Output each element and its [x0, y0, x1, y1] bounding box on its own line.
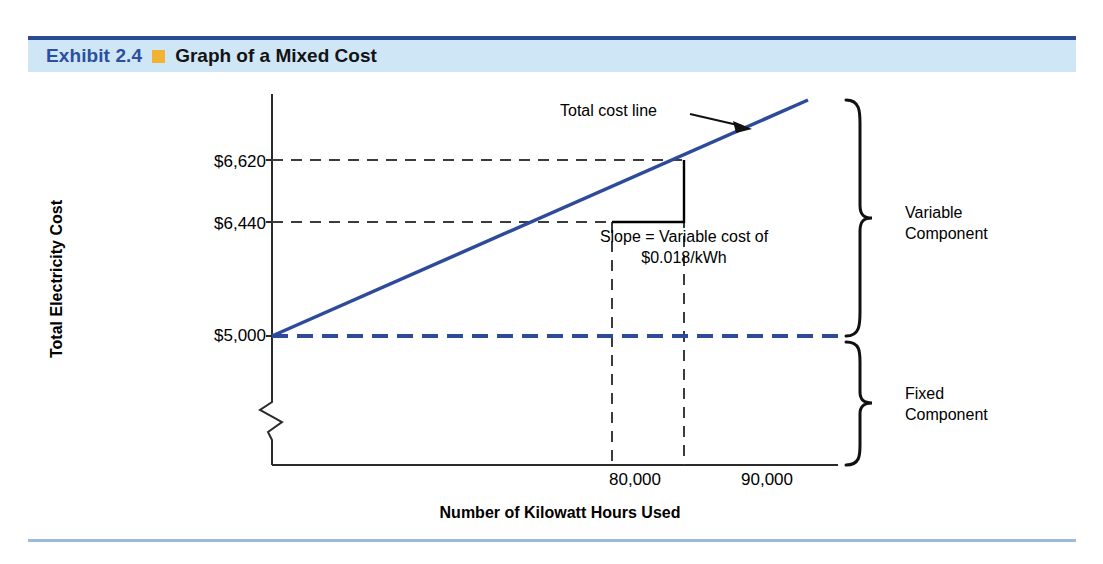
- y-axis-break-icon: [260, 394, 282, 465]
- variable-component-brace: [846, 100, 872, 336]
- bottom-divider: [28, 539, 1076, 542]
- x-tick-label-90000: 90,000: [707, 470, 827, 490]
- annotation-slope-line2: $0.018/kWh: [548, 247, 820, 268]
- exhibit-header-content: Exhibit 2.4 Graph of a Mixed Cost: [28, 45, 377, 67]
- total-cost-line: [272, 100, 808, 336]
- annotation-fixed-component: Fixed Component: [905, 383, 988, 425]
- exhibit-number: Exhibit 2.4: [46, 45, 142, 67]
- y-axis-title: Total Electricity Cost: [48, 159, 66, 399]
- exhibit-header: Exhibit 2.4 Graph of a Mixed Cost: [28, 36, 1076, 72]
- fixed-component-brace: [846, 342, 872, 465]
- annotation-variable-component-line2: Component: [905, 223, 988, 244]
- annotation-total-cost-line: Total cost line: [560, 102, 657, 120]
- y-tick-label-5000: $5,000: [170, 326, 266, 346]
- chart-canvas: [0, 72, 1103, 532]
- y-tick-label-6620: $6,620: [170, 152, 266, 172]
- chart-figure: Total Electricity Cost $6,620 $6,440 $5,…: [0, 72, 1103, 532]
- orange-square-icon: [152, 50, 165, 63]
- annotation-slope-line1: Slope = Variable cost of: [548, 226, 820, 247]
- annotation-fixed-component-line1: Fixed: [905, 383, 988, 404]
- annotation-fixed-component-line2: Component: [905, 404, 988, 425]
- annotation-variable-component-line1: Variable: [905, 202, 988, 223]
- x-axis-title: Number of Kilowatt Hours Used: [300, 504, 820, 522]
- annotation-variable-component: Variable Component: [905, 202, 988, 244]
- annotation-slope: Slope = Variable cost of $0.018/kWh: [548, 226, 820, 268]
- x-tick-label-80000: 80,000: [575, 470, 695, 490]
- exhibit-title: Graph of a Mixed Cost: [175, 45, 377, 67]
- y-tick-label-6440: $6,440: [170, 214, 266, 234]
- exhibit-page: Exhibit 2.4 Graph of a Mixed Cost: [0, 0, 1103, 564]
